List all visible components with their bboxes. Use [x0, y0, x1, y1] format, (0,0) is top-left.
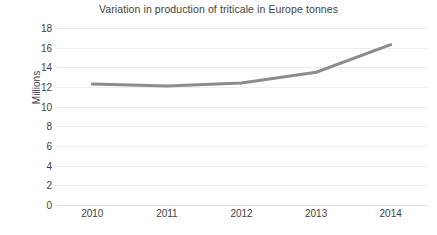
- y-tick-12: 12: [6, 82, 52, 93]
- y-tick-6: 6: [6, 141, 52, 152]
- series-line-triticale-production: [92, 45, 390, 86]
- y-tick-8: 8: [6, 121, 52, 132]
- y-tick-10: 10: [6, 101, 52, 112]
- y-tick-14: 14: [6, 62, 52, 73]
- y-tick-2: 2: [6, 180, 52, 191]
- plot-area: [55, 28, 428, 205]
- x-tick-2013: 2013: [276, 208, 356, 219]
- y-tick-16: 16: [6, 42, 52, 53]
- x-tick-2011: 2011: [127, 208, 207, 219]
- series-line-chart: [55, 28, 428, 205]
- chart-container: Variation in production of triticale in …: [0, 0, 437, 235]
- x-tick-2010: 2010: [52, 208, 132, 219]
- y-axis-tick-labels: 181614121086420: [0, 28, 52, 205]
- y-tick-4: 4: [6, 160, 52, 171]
- y-tick-0: 0: [6, 200, 52, 211]
- x-axis-tick-labels: 20102011201220132014: [55, 208, 428, 228]
- x-tick-2012: 2012: [202, 208, 282, 219]
- chart-title: Variation in production of triticale in …: [0, 3, 437, 15]
- gridline-0: [55, 205, 428, 206]
- y-tick-18: 18: [6, 23, 52, 34]
- x-tick-2014: 2014: [351, 208, 431, 219]
